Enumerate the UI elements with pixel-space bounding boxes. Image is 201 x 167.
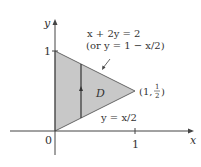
vertex-frac-num: 1 (155, 83, 159, 91)
x-axis-label: x (190, 134, 197, 147)
origin-label: 0 (45, 134, 52, 147)
pointer-arrow-icon (102, 66, 106, 71)
region-label: D (95, 87, 105, 100)
upper-boundary-alt-equation: (or y = 1 − x/2) (86, 40, 165, 51)
x-tick-label: 1 (132, 138, 139, 151)
vertex-close: ) (161, 86, 165, 97)
vertex-frac-den: 2 (155, 92, 159, 100)
x-axis-arrow-icon (188, 129, 194, 134)
vertex-open: (1, (139, 86, 152, 97)
upper-boundary-equation: x + 2y = 2 (87, 28, 141, 39)
y-tick-label: 1 (44, 45, 51, 58)
y-axis-label: y (43, 17, 51, 30)
region-diagram: y x 0 1 1 x + 2y = 2 (or y = 1 − x/2) D … (0, 0, 201, 167)
lower-boundary-equation: y = x/2 (100, 112, 137, 123)
y-axis-arrow-icon (53, 19, 58, 25)
